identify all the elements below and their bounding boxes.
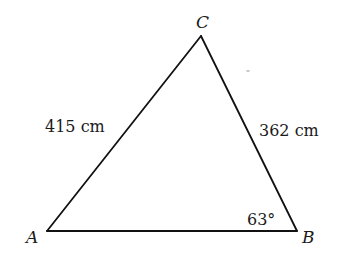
vertex-label-b: B [301,227,315,247]
vertex-label-a: A [24,227,38,247]
angle-b-label: 63° [247,210,275,229]
speck-artifact [246,70,250,72]
side-cb-length-label: 362 cm [259,121,319,140]
triangle-diagram: C A B 415 cm 362 cm 63° [0,0,344,266]
side-ac-length-label: 415 cm [45,117,105,136]
vertex-label-c: C [196,12,209,32]
